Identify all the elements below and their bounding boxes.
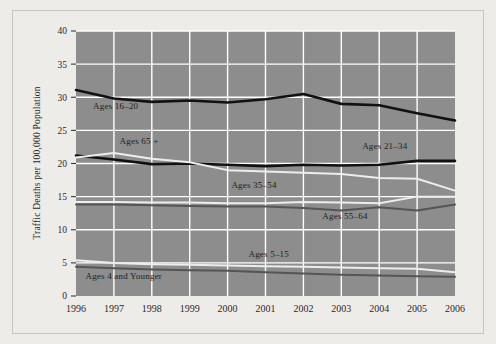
chart-page: 0510152025303540 19961997199819992000200…: [0, 0, 496, 344]
chart-svg: 0510152025303540 19961997199819992000200…: [0, 0, 496, 344]
y-axis-title: Traffic Deaths per 100,000 Population: [32, 86, 42, 239]
y-tick-label-20: 20: [58, 159, 68, 169]
series-label-ages-55-64: Ages 55–64: [322, 211, 368, 221]
x-tick-label-2003: 2003: [331, 303, 351, 314]
y-tick-label-35: 35: [58, 60, 68, 70]
line-chart: 0510152025303540 19961997199819992000200…: [0, 0, 496, 344]
y-tick-label-5: 5: [62, 258, 67, 268]
x-tick-label-2005: 2005: [407, 303, 427, 314]
series-label-ages-21-34: Ages 21–34: [362, 141, 408, 151]
x-axis-ticks: 1996199719981999200020012002200320042005…: [66, 303, 465, 314]
y-tick-label-15: 15: [58, 192, 68, 202]
x-tick-label-1996: 1996: [66, 303, 86, 314]
series-label-ages-35-54: Ages 35–54: [231, 180, 277, 190]
y-tick-label-10: 10: [58, 225, 68, 235]
series-label-ages-5-15: Ages 5–15: [248, 249, 289, 259]
x-tick-label-1998: 1998: [142, 303, 162, 314]
series-label-ages-4-and-younger: Ages 4 and Younger: [85, 271, 162, 281]
x-tick-label-1997: 1997: [104, 303, 124, 314]
x-tick-label-2000: 2000: [218, 303, 238, 314]
y-tick-label-40: 40: [58, 26, 68, 36]
y-tick-label-25: 25: [58, 126, 68, 136]
x-tick-label-1999: 1999: [180, 303, 200, 314]
series-label-ages-65-: Ages 65 +: [120, 136, 159, 146]
y-tick-label-30: 30: [58, 93, 68, 103]
x-tick-label-2001: 2001: [256, 303, 276, 314]
y-axis-ticks: 0510152025303540: [58, 26, 77, 301]
x-tick-label-2004: 2004: [369, 303, 389, 314]
x-tick-label-2006: 2006: [445, 303, 465, 314]
series-label-ages-16-20: Ages 16–20: [93, 101, 139, 111]
x-tick-label-2002: 2002: [293, 303, 313, 314]
y-tick-label-0: 0: [62, 291, 67, 301]
